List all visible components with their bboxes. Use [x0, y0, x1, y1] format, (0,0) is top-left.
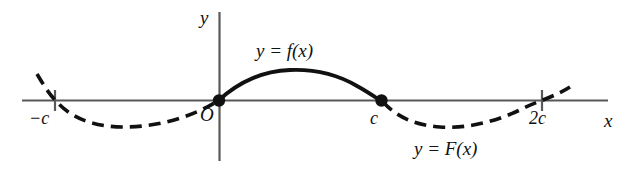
- math-figure: y x O −c c 2c y = f(x) y = F(x): [0, 0, 639, 169]
- tick-label-2c: 2c: [529, 109, 546, 127]
- curve-label-f: y = f(x): [256, 41, 313, 60]
- solid-curve-fx: [219, 70, 381, 101]
- tick-label-minus-c: −c: [29, 109, 49, 127]
- point-c: [375, 94, 387, 106]
- x-axis-label: x: [604, 111, 612, 130]
- curve-label-F: y = F(x): [414, 139, 477, 158]
- tick-label-c: c: [370, 109, 378, 127]
- origin-label: O: [200, 105, 214, 124]
- y-axis-label: y: [200, 8, 208, 27]
- point-origin: [213, 94, 225, 106]
- graph-canvas: [0, 0, 639, 169]
